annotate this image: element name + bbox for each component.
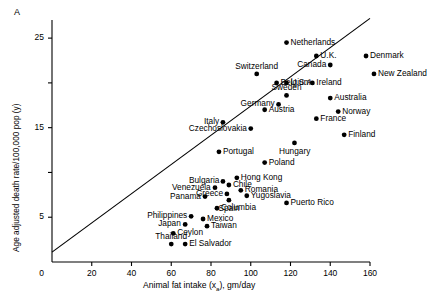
point-label: Poland bbox=[269, 158, 295, 167]
x-axis-title-tail: ), gm/day bbox=[219, 280, 255, 290]
data-point bbox=[201, 217, 206, 222]
data-point bbox=[254, 72, 259, 77]
data-point bbox=[183, 222, 188, 227]
data-point bbox=[183, 242, 188, 247]
data-point bbox=[205, 224, 210, 229]
x-axis-title-main: Animal fat intake (x bbox=[143, 280, 216, 290]
y-tick-label: 5 bbox=[26, 212, 44, 221]
x-tick-label: 120 bbox=[281, 269, 301, 278]
x-tick-label: 80 bbox=[201, 269, 221, 278]
point-label: Australia bbox=[334, 93, 366, 102]
x-axis-title: Animal fat intake (xa), gm/day bbox=[143, 280, 255, 292]
point-label: Ireland bbox=[316, 78, 341, 87]
data-point bbox=[217, 149, 222, 154]
point-label: Puerto Rico bbox=[291, 198, 334, 207]
x-tick-label: 60 bbox=[161, 269, 181, 278]
data-point bbox=[364, 54, 369, 59]
x-tick-label: 100 bbox=[241, 269, 261, 278]
x-tick-label: 40 bbox=[122, 269, 142, 278]
x-tick-label: 20 bbox=[82, 269, 102, 278]
data-point bbox=[284, 200, 289, 205]
data-point bbox=[248, 126, 253, 131]
point-label: El Salvador bbox=[189, 239, 231, 248]
point-label: Sweden bbox=[272, 83, 302, 92]
data-point bbox=[314, 116, 319, 121]
point-label: New Zealand bbox=[378, 69, 427, 78]
point-label: Finland bbox=[348, 130, 375, 139]
point-label: Portugal bbox=[223, 147, 254, 156]
data-point bbox=[169, 242, 174, 247]
point-label: Taiwan bbox=[211, 221, 237, 230]
point-label: Canada bbox=[297, 60, 326, 69]
data-point bbox=[372, 72, 377, 77]
point-label: Panama bbox=[170, 192, 201, 201]
point-label: Denmark bbox=[370, 51, 404, 60]
point-label: Thailand bbox=[155, 232, 187, 241]
y-axis-title: Age adjusted death rate/100,000 pop (y) bbox=[11, 103, 21, 252]
data-point bbox=[221, 179, 226, 184]
y-axis-zero-label: 0 bbox=[26, 269, 44, 278]
y-tick-label: 25 bbox=[26, 33, 44, 42]
data-point bbox=[225, 192, 230, 197]
point-label: Netherlands bbox=[291, 38, 336, 47]
point-label: Switzerland bbox=[235, 62, 278, 71]
data-point bbox=[292, 140, 297, 145]
x-tick-label: 140 bbox=[320, 269, 340, 278]
data-point bbox=[284, 40, 289, 45]
point-label: Austria bbox=[269, 105, 295, 114]
point-label: France bbox=[320, 114, 346, 123]
data-point bbox=[328, 63, 333, 68]
point-label: Columbia bbox=[221, 203, 256, 212]
point-label: Yugoslavia bbox=[251, 191, 291, 200]
data-point bbox=[226, 183, 231, 188]
data-point bbox=[314, 54, 319, 59]
y-tick-label: 15 bbox=[26, 123, 44, 132]
data-point bbox=[328, 96, 333, 101]
point-label: Hungary bbox=[279, 147, 310, 156]
data-point bbox=[284, 93, 289, 98]
data-point bbox=[342, 132, 347, 137]
data-point bbox=[189, 214, 194, 219]
x-tick-label: 160 bbox=[360, 269, 380, 278]
point-label: Norway bbox=[342, 107, 370, 116]
data-point bbox=[262, 160, 267, 165]
point-label: Czechoslovakia bbox=[189, 124, 247, 133]
